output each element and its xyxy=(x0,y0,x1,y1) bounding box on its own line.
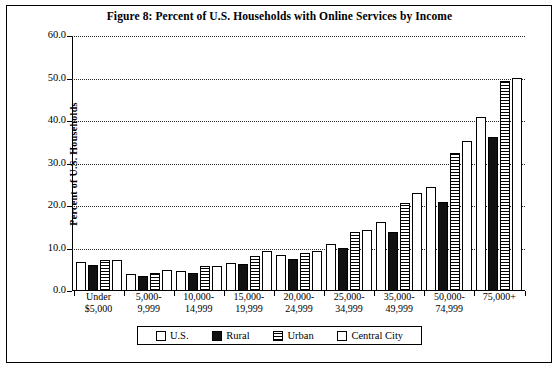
y-tick-label: 40.0 xyxy=(34,114,66,125)
x-tick-line: 5,000- xyxy=(124,291,174,303)
bar-urban xyxy=(200,266,210,291)
bar-rural xyxy=(388,232,398,292)
x-tick-label: 5,000-9,999 xyxy=(124,291,174,314)
bar-rural xyxy=(488,137,498,291)
chart-plot-area: Percent of U.S. Households 0.010.020.030… xyxy=(72,36,525,291)
y-tick-label: 10.0 xyxy=(34,242,66,253)
x-tick-line: 34,999 xyxy=(324,303,374,315)
bar-rural xyxy=(338,248,348,291)
bar-cc xyxy=(312,251,322,291)
bar-group xyxy=(274,36,324,291)
bar-us xyxy=(276,255,286,291)
bar-rural xyxy=(188,273,198,291)
bar-groups xyxy=(74,36,525,291)
legend-item-central-city: Central City xyxy=(337,330,403,341)
bar-urban xyxy=(300,253,310,291)
x-tick-line: 50,000- xyxy=(424,291,474,303)
bar-cc xyxy=(412,193,422,291)
bar-cc xyxy=(212,266,222,292)
y-tick-mark xyxy=(67,79,72,80)
bar-us xyxy=(326,244,336,291)
bar-us xyxy=(176,271,186,291)
x-tick-line: 49,999 xyxy=(374,303,424,315)
x-tick-line: $5,000 xyxy=(74,303,124,315)
bar-rural xyxy=(138,276,148,291)
chart-legend: U.S. Rural Urban Central City xyxy=(137,326,422,345)
x-tick-label: 15,000-19,999 xyxy=(224,291,274,314)
x-tick-mark xyxy=(374,291,375,296)
bar-rural xyxy=(288,259,298,291)
x-tick-mark xyxy=(174,291,175,296)
bar-rural xyxy=(438,202,448,291)
figure-page: Figure 8: Percent of U.S. Households wit… xyxy=(0,0,559,369)
y-tick-mark xyxy=(67,291,72,292)
x-tick-label: 35,000-49,999 xyxy=(374,291,424,314)
x-tick-line: 25,000- xyxy=(324,291,374,303)
bar-cc xyxy=(462,141,472,291)
x-tick-label: 20,000-24,999 xyxy=(274,291,324,314)
x-tick-line: 15,000- xyxy=(224,291,274,303)
y-tick-mark xyxy=(67,249,72,250)
legend-item-rural: Rural xyxy=(212,330,249,341)
legend-swatch-us-icon xyxy=(156,331,166,341)
x-axis-tick-labels: Under$5,0005,000-9,99910,000-14,99915,00… xyxy=(74,291,525,314)
legend-label-rural: Rural xyxy=(226,330,249,341)
figure-title: Figure 8: Percent of U.S. Households wit… xyxy=(0,10,559,22)
legend-swatch-rural-icon xyxy=(212,331,222,341)
legend-label-urban: Urban xyxy=(287,330,313,341)
legend-label-us: U.S. xyxy=(170,330,189,341)
y-tick-label: 60.0 xyxy=(34,29,66,40)
bar-group xyxy=(124,36,174,291)
y-tick-label: 30.0 xyxy=(34,157,66,168)
x-tick-mark xyxy=(224,291,225,296)
bar-cc xyxy=(162,270,172,291)
bar-urban xyxy=(150,273,160,291)
bar-group xyxy=(424,36,474,291)
legend-label-central-city: Central City xyxy=(351,330,403,341)
x-tick-mark xyxy=(74,291,75,296)
y-tick-mark xyxy=(67,121,72,122)
legend-item-us: U.S. xyxy=(156,330,189,341)
bar-rural xyxy=(238,264,248,291)
y-tick-label: 20.0 xyxy=(34,199,66,210)
bar-urban xyxy=(250,256,260,291)
bar-group xyxy=(474,36,524,291)
legend-item-urban: Urban xyxy=(273,330,313,341)
x-tick-line: 20,000- xyxy=(274,291,324,303)
bar-urban xyxy=(350,232,360,291)
x-tick-label: Under$5,000 xyxy=(74,291,124,314)
y-tick-mark xyxy=(67,36,72,37)
x-tick-mark xyxy=(124,291,125,296)
x-tick-mark xyxy=(474,291,475,296)
bar-group xyxy=(74,36,124,291)
bar-us xyxy=(76,262,86,291)
y-tick-mark xyxy=(67,164,72,165)
x-tick-line: 19,999 xyxy=(224,303,274,315)
bar-us xyxy=(426,187,436,291)
x-tick-mark xyxy=(424,291,425,296)
bar-group xyxy=(324,36,374,291)
bar-group xyxy=(374,36,424,291)
x-tick-label: 75,000+ xyxy=(474,291,524,314)
bar-group xyxy=(224,36,274,291)
bar-cc xyxy=(112,260,122,291)
y-tick-label: 50.0 xyxy=(34,72,66,83)
bar-cc xyxy=(362,230,372,291)
x-tick-label: 10,000-14,999 xyxy=(174,291,224,314)
x-tick-label: 50,000-74,999 xyxy=(424,291,474,314)
bar-rural xyxy=(88,265,98,291)
y-tick-mark xyxy=(67,206,72,207)
x-tick-line: 9,999 xyxy=(124,303,174,315)
bar-group xyxy=(174,36,224,291)
y-tick-label: 0.0 xyxy=(34,284,66,295)
x-tick-line: 75,000+ xyxy=(474,291,524,303)
bar-urban xyxy=(400,203,410,291)
x-tick-line: 10,000- xyxy=(174,291,224,303)
bar-us xyxy=(476,117,486,291)
x-tick-label: 25,000-34,999 xyxy=(324,291,374,314)
bar-cc xyxy=(512,78,522,291)
x-tick-mark xyxy=(274,291,275,296)
x-tick-line: 14,999 xyxy=(174,303,224,315)
bar-us xyxy=(226,263,236,291)
bar-urban xyxy=(100,260,110,291)
